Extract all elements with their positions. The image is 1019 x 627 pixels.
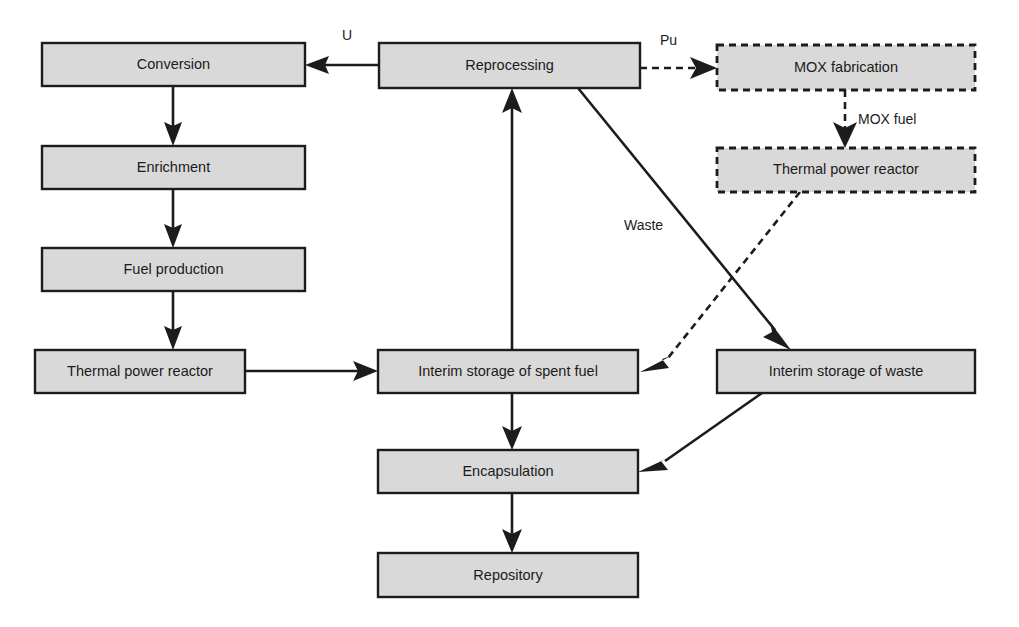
node-label-interim-storage-waste: Interim storage of waste: [769, 363, 924, 379]
node-repository[interactable]: Repository: [378, 553, 638, 597]
node-label-thermal-power-reactor: Thermal power reactor: [67, 363, 213, 379]
edge-encapsulation-to-repository: [502, 493, 522, 553]
node-mox-fabrication[interactable]: MOX fabrication: [717, 45, 975, 90]
node-enrichment[interactable]: Enrichment: [42, 146, 305, 189]
node-label-conversion: Conversion: [137, 56, 210, 72]
edge-fuel-production-to-thermal-power-reactor: [164, 291, 182, 350]
edge-label-waste: Waste: [624, 217, 663, 233]
edge-label-u: U: [342, 27, 352, 43]
node-label-mox-thermal-power-reactor: Thermal power reactor: [773, 161, 919, 177]
edge-mox-fabrication-to-mox-thermal-reactor: MOX fuel: [833, 90, 916, 148]
edge-line: [668, 192, 800, 358]
node-interim-storage-waste[interactable]: Interim storage of waste: [717, 350, 975, 393]
edge-reprocessing-to-conversion: U: [305, 27, 379, 74]
flowchart-canvas: U Pu: [0, 0, 1019, 627]
edge-label-mox-fuel: MOX fuel: [858, 111, 916, 127]
arrow-head: [763, 322, 791, 350]
node-thermal-power-reactor[interactable]: Thermal power reactor: [35, 350, 245, 393]
edge-interim-waste-to-encapsulation: [638, 393, 762, 472]
edge-thermal-power-reactor-to-interim-spent-fuel: [245, 361, 378, 381]
edge-line: [665, 393, 762, 461]
node-label-reprocessing: Reprocessing: [465, 57, 554, 73]
node-label-mox-fabrication: MOX fabrication: [794, 59, 898, 75]
node-mox-thermal-power-reactor[interactable]: Thermal power reactor: [717, 148, 975, 192]
edge-reprocessing-to-interim-waste: Waste: [578, 88, 791, 350]
edge-label-pu: Pu: [660, 32, 677, 48]
node-label-fuel-production: Fuel production: [124, 261, 224, 277]
node-fuel-production[interactable]: Fuel production: [42, 248, 305, 291]
edge-conversion-to-enrichment: [164, 86, 182, 146]
edge-line: [578, 88, 775, 330]
edge-reprocessing-to-mox-fabrication: Pu: [640, 32, 717, 79]
node-encapsulation[interactable]: Encapsulation: [378, 450, 638, 493]
node-label-enrichment: Enrichment: [137, 159, 210, 175]
edge-enrichment-to-fuel-production: [164, 189, 182, 248]
node-reprocessing[interactable]: Reprocessing: [379, 43, 640, 88]
edge-mox-thermal-reactor-to-interim-spent-fuel: [640, 192, 800, 372]
fuel-cycle-diagram: U Pu: [0, 0, 1019, 627]
node-label-interim-storage-spent-fuel: Interim storage of spent fuel: [418, 363, 598, 379]
node-interim-storage-spent-fuel[interactable]: Interim storage of spent fuel: [378, 350, 638, 393]
node-conversion[interactable]: Conversion: [42, 43, 305, 86]
edge-interim-spent-fuel-to-reprocessing: [502, 88, 522, 350]
node-label-repository: Repository: [473, 567, 543, 583]
node-label-encapsulation: Encapsulation: [462, 463, 553, 479]
arrow-head: [638, 457, 670, 472]
edge-interim-spent-fuel-to-encapsulation: [502, 393, 522, 450]
arrow-head: [833, 122, 857, 148]
arrow-head: [640, 356, 671, 372]
